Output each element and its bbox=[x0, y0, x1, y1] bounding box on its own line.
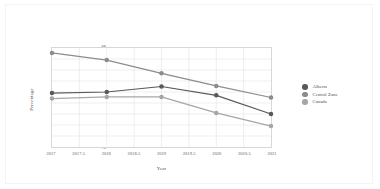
legend-label: Canada bbox=[311, 99, 327, 104]
data-point bbox=[269, 124, 274, 129]
legend-label: Alberta bbox=[311, 84, 327, 89]
data-point bbox=[159, 95, 164, 100]
x-tick-label: 2021 bbox=[252, 152, 292, 156]
data-point bbox=[104, 90, 109, 95]
data-point bbox=[214, 111, 219, 116]
x-axis-title: Year bbox=[51, 166, 272, 171]
y-axis-title-text: Percentage bbox=[29, 88, 34, 111]
data-point bbox=[104, 58, 109, 63]
chart-figure: Percentage 88868482807876747270 20172017… bbox=[0, 0, 380, 189]
plot-area bbox=[51, 47, 272, 148]
legend-item[interactable]: Central Zone bbox=[300, 91, 370, 99]
data-point bbox=[269, 112, 274, 117]
data-point bbox=[50, 91, 55, 96]
legend-marker-icon bbox=[300, 98, 311, 106]
legend-item[interactable]: Canada bbox=[300, 98, 370, 106]
data-point bbox=[104, 95, 109, 100]
y-axis-title: Percentage bbox=[26, 70, 36, 128]
data-point bbox=[214, 84, 219, 89]
data-point bbox=[159, 84, 164, 89]
legend-marker-icon bbox=[300, 83, 311, 91]
data-point bbox=[214, 93, 219, 98]
data-point bbox=[50, 96, 55, 101]
series-line bbox=[52, 97, 271, 126]
legend-item[interactable]: Alberta bbox=[300, 83, 370, 91]
data-point bbox=[50, 51, 55, 56]
data-series-layer bbox=[52, 48, 271, 147]
data-point bbox=[159, 71, 164, 76]
chart-legend: AlbertaCentral ZoneCanada bbox=[300, 83, 370, 106]
legend-marker-icon bbox=[300, 91, 311, 99]
legend-label: Central Zone bbox=[311, 92, 338, 97]
data-point bbox=[269, 95, 274, 100]
